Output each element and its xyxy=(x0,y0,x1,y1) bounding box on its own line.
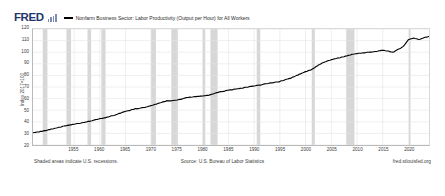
x-axis-tick-label: 2010 xyxy=(353,148,363,153)
gridlines xyxy=(33,29,429,145)
plot-area xyxy=(32,28,430,146)
x-axis-tick-label: 2000 xyxy=(301,148,311,153)
x-axis-tick-label: 1995 xyxy=(275,148,285,153)
x-axis-tick-label: 2020 xyxy=(404,148,414,153)
y-axis-tick-label: 110 xyxy=(22,38,29,43)
footer-url-link[interactable]: fred.stlouisfed.org xyxy=(393,160,431,165)
y-axis-tick-label: 90 xyxy=(24,61,29,66)
legend-series-label: Nonfarm Business Sector: Labor Productiv… xyxy=(76,16,250,21)
x-axis-tick-label: 1985 xyxy=(223,148,233,153)
x-axis-tick-label: 2015 xyxy=(378,148,388,153)
line-chart-svg xyxy=(33,29,429,145)
fred-chart-card: FRED Nonfarm Business Sector: Labor Prod… xyxy=(10,10,435,182)
series-line-productivity xyxy=(33,36,429,132)
x-axis-tick-label: 1960 xyxy=(94,148,104,153)
footer-source-note: Source: U.S. Bureau of Labor Statistics xyxy=(181,160,264,165)
x-axis-tick-label: 1975 xyxy=(172,148,182,153)
x-axis-tick-label: 2005 xyxy=(327,148,337,153)
y-axis-tick-label: 40 xyxy=(24,120,29,125)
y-axis-tick-label: 100 xyxy=(21,49,29,54)
x-axis-tick-label: 1990 xyxy=(249,148,259,153)
x-axis-tick-label: 1980 xyxy=(197,148,207,153)
y-axis-tick-label: 20 xyxy=(24,144,29,149)
y-axis-tick-label: 70 xyxy=(24,85,29,90)
x-axis-ticks: 1955196019651970197519801985199019952000… xyxy=(32,148,430,156)
footer-recession-note: Shaded areas indicate U.S. recessions. xyxy=(34,160,118,165)
x-axis-tick-label: 1965 xyxy=(120,148,130,153)
bar-chart-icon xyxy=(48,14,57,22)
chart-footer: Shaded areas indicate U.S. recessions. S… xyxy=(10,160,435,170)
y-axis-tick-label: 120 xyxy=(21,26,29,31)
y-axis-ticks: 1201101009080706050403020 xyxy=(10,28,31,146)
y-axis-tick-label: 50 xyxy=(24,108,29,113)
y-axis-tick-label: 80 xyxy=(24,73,29,78)
fred-logo: FRED xyxy=(14,12,44,24)
x-axis-tick-label: 1955 xyxy=(68,148,78,153)
chart-header: FRED Nonfarm Business Sector: Labor Prod… xyxy=(10,10,435,26)
chart-legend: Nonfarm Business Sector: Labor Productiv… xyxy=(64,16,250,21)
y-axis-tick-label: 60 xyxy=(24,97,29,102)
legend-swatch-icon xyxy=(64,17,73,20)
x-axis-tick-label: 1970 xyxy=(146,148,156,153)
y-axis-tick-label: 30 xyxy=(24,132,29,137)
